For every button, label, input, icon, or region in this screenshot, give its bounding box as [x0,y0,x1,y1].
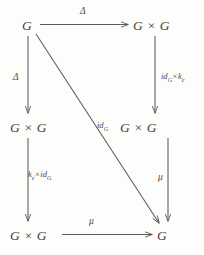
edge-label-left-lower-base-2: id [40,169,47,179]
edge-label-right-lower-vertical: μ [158,172,163,182]
node-top-right: G × G [133,18,170,34]
node-bottom-left: G × G [10,228,47,244]
node-middle-left: G × G [10,120,47,136]
node-middle-right: G × G [120,120,157,136]
edge-label-left-upper-vertical: Δ [13,72,19,82]
edge-label-diagonal: idG [97,120,108,132]
node-top-left: G [22,18,32,34]
edge-label-left-lower-sub-2: G [47,174,51,181]
edge-label-left-lower-vertical: ke×idG [28,169,51,181]
node-bottom-right: G [157,228,167,244]
diagram-page: G G × G G × G G × G G × G G Δ Δ idG×ke k… [0,0,204,255]
edge-label-diagonal-base: id [97,120,104,130]
edge-label-top-horizontal: Δ [80,6,86,16]
edge-label-bottom-horizontal: μ [89,216,94,226]
edge-label-right-upper-vertical: idG×ke [161,71,184,83]
edge-label-right-upper-base-1: id [161,71,168,81]
edge-label-diagonal-sub: G [104,125,108,132]
edge-label-right-upper-sub-2: e [182,76,185,83]
